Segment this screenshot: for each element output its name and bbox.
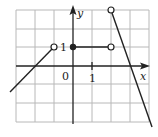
x-tick-label: 1: [89, 72, 96, 85]
open-point-icon: [51, 44, 57, 50]
function-graph: y x 0 1 1: [0, 0, 158, 137]
origin-label: 0: [62, 70, 69, 83]
y-tick-label: 1: [60, 41, 67, 54]
open-point-icon: [108, 44, 114, 50]
open-point-icon: [108, 7, 114, 13]
filled-point-icon: [70, 44, 75, 49]
x-axis-label: x: [140, 70, 147, 83]
graph-lines: [10, 13, 152, 127]
y-axis-label: y: [76, 7, 84, 20]
